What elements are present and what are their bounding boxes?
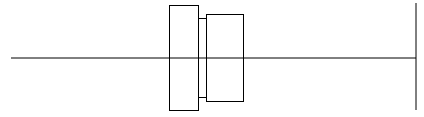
diagram-canvas <box>0 0 424 117</box>
